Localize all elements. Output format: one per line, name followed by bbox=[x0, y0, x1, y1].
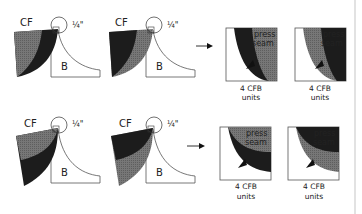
seam-label: ¼" bbox=[72, 120, 83, 129]
b-label: B bbox=[156, 61, 163, 72]
cf-label: CF bbox=[24, 118, 37, 129]
cfb-result-4: press seam 4 CFB units bbox=[288, 127, 339, 201]
cf-b-unit-2: CF ¼" B bbox=[109, 17, 195, 77]
seam-label: ¼" bbox=[72, 21, 83, 30]
cfb-result-2: press seam 4 CFB units bbox=[295, 28, 346, 102]
b-piece bbox=[51, 30, 100, 77]
cfb-result-1: press seam 4 CFB units bbox=[226, 28, 277, 102]
caption-line2: units bbox=[311, 93, 330, 102]
b-piece bbox=[146, 30, 195, 77]
seam-label: seam bbox=[321, 39, 343, 48]
cf-label: CF bbox=[115, 17, 128, 28]
press-label: press bbox=[254, 30, 275, 39]
cf-label: CF bbox=[20, 17, 33, 28]
cfb-result-3: press seam 4 CFB units bbox=[220, 127, 271, 201]
seam-label: ¼" bbox=[167, 120, 178, 129]
b-piece bbox=[146, 129, 195, 183]
caption-line2: units bbox=[237, 192, 256, 201]
seam-label: seam bbox=[245, 138, 267, 147]
b-label: B bbox=[61, 61, 68, 72]
press-label: press bbox=[314, 129, 335, 138]
caption-line1: 4 CFB bbox=[240, 84, 262, 93]
b-label: B bbox=[61, 167, 68, 178]
seam-label: seam bbox=[252, 39, 274, 48]
arrow-icon bbox=[187, 143, 205, 149]
cf-b-unit-1: CF ¼" B bbox=[14, 17, 100, 77]
caption-line2: units bbox=[305, 192, 324, 201]
seam-label: seam bbox=[313, 138, 335, 147]
caption-line2: units bbox=[242, 93, 261, 102]
b-piece bbox=[51, 129, 100, 183]
seam-label: ¼" bbox=[167, 21, 178, 30]
cf-b-unit-3: CF ¼" B bbox=[16, 117, 100, 186]
press-label: press bbox=[246, 129, 267, 138]
press-label: press bbox=[323, 30, 344, 39]
b-label: B bbox=[156, 167, 163, 178]
caption-line1: 4 CFB bbox=[235, 182, 257, 191]
cf-label: CF bbox=[119, 118, 132, 129]
caption-line1: 4 CFB bbox=[303, 182, 325, 191]
arrow-icon bbox=[196, 43, 213, 49]
quilt-diagram: CF ¼" B CF ¼" B press seam 4 CFB units p… bbox=[0, 0, 362, 214]
caption-line1: 4 CFB bbox=[309, 84, 331, 93]
cf-b-unit-4: CF ¼" B bbox=[111, 117, 195, 186]
